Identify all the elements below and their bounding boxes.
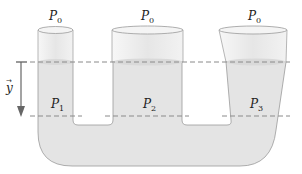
svg-text:2: 2: [151, 104, 156, 113]
right-cone-empty: [219, 30, 287, 62]
liquid-body: [38, 62, 286, 166]
middle-tube-opening: [112, 26, 183, 34]
svg-text:0: 0: [57, 16, 62, 25]
connected-vessels-diagram: y → P 0 P 0 P 0 P 1 P 2 P 3: [0, 0, 302, 174]
middle-tube-empty: [112, 30, 183, 62]
svg-text:1: 1: [59, 104, 64, 113]
left-top-pressure-label: P 0: [48, 9, 62, 25]
svg-text:3: 3: [258, 104, 263, 113]
right-top-pressure-label: P 0: [247, 9, 261, 25]
svg-text:0: 0: [256, 16, 261, 25]
right-cone-opening: [219, 26, 287, 34]
down-arrow-icon: [17, 106, 25, 117]
left-tube-empty: [38, 30, 73, 62]
middle-top-pressure-label: P 0: [140, 9, 154, 25]
y-vector-mark: →: [6, 77, 12, 85]
left-tube-opening: [38, 27, 73, 34]
svg-text:0: 0: [149, 16, 154, 25]
